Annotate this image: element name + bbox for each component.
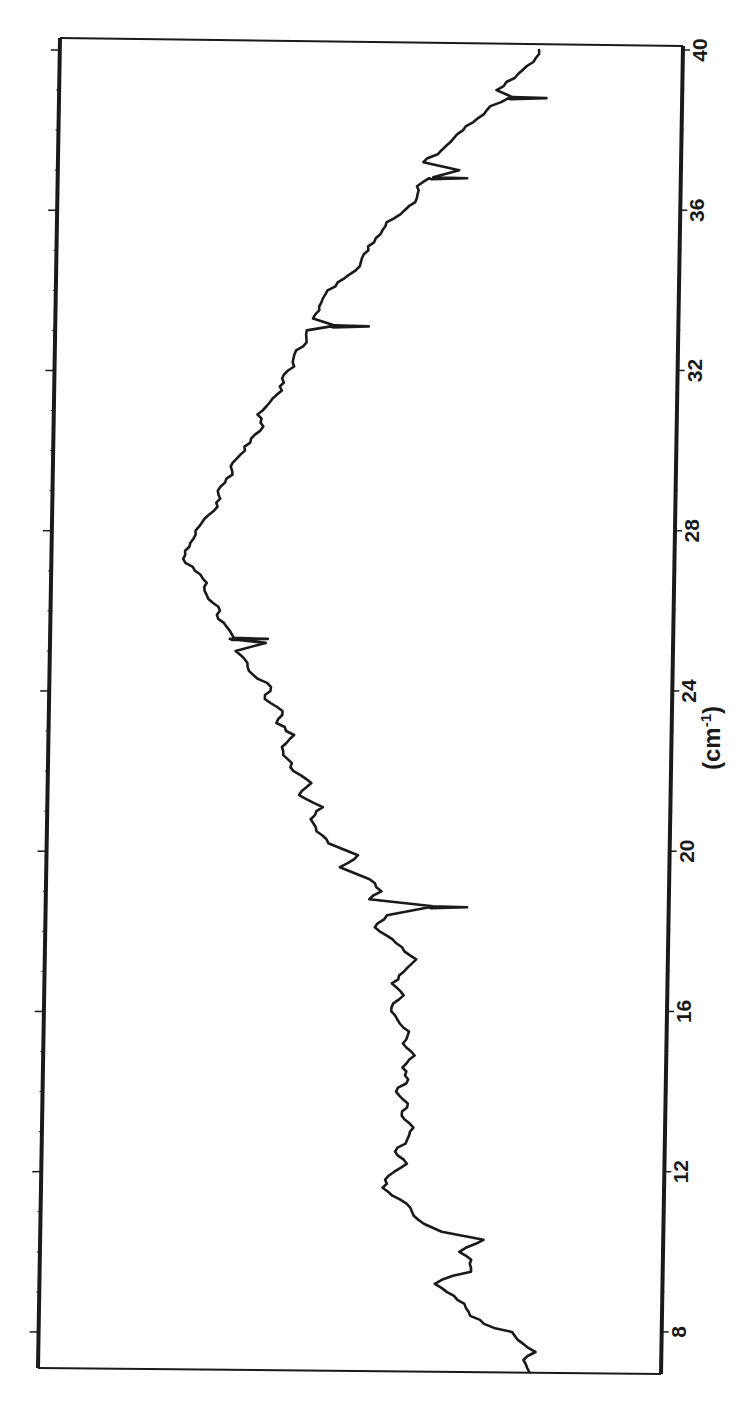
wavenumber-tick-label: 36	[685, 199, 708, 222]
spectrum-trace	[183, 50, 546, 1372]
wavenumber-tick-label: 32	[683, 359, 706, 382]
wavenumber-tick-label: 8	[667, 1326, 690, 1338]
wavenumber-tick-label: 28	[680, 519, 703, 543]
frame-top-edge	[60, 38, 683, 46]
frame-bottom-edge	[38, 1368, 661, 1374]
intensity-axis-line	[38, 38, 60, 1368]
wavenumber-tick-label: 40	[688, 38, 711, 61]
wavenumber-tick-label: 24	[677, 679, 700, 703]
wavenumber-tick-label: 12	[669, 1160, 692, 1183]
wavenumber-tick-label: 16	[672, 1000, 695, 1023]
plot-frame	[38, 38, 683, 1374]
spectrum-chart: 81216202428323640 (cm-1)	[0, 0, 748, 1405]
wavenumber-axis-title: (cm-1)	[697, 706, 725, 770]
wavenumber-tick-label: 20	[675, 840, 698, 863]
